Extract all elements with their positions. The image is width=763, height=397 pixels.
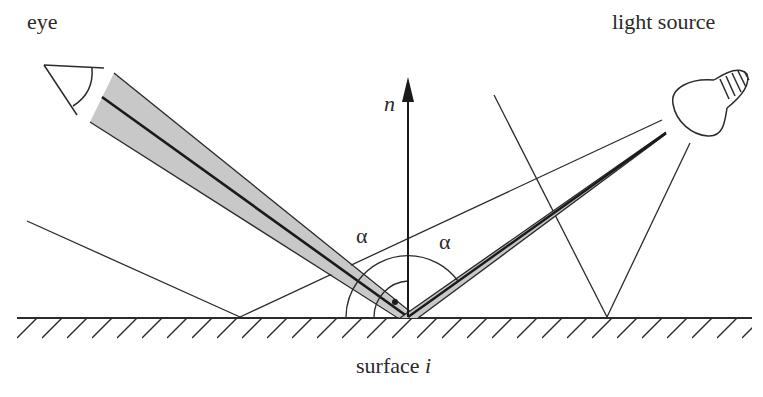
surface-label-text: surface	[356, 353, 420, 378]
surface-label: surface i	[356, 355, 431, 377]
light-source-label: light source	[612, 11, 715, 33]
light-bulb-icon	[673, 70, 749, 136]
light-beam	[400, 132, 666, 318]
view-beam	[90, 73, 418, 318]
eye-icon	[44, 65, 104, 115]
reflection-point-marker	[392, 299, 398, 305]
angle-label-incident: α	[356, 225, 368, 247]
angle-label-reflected: α	[439, 231, 451, 253]
reflection-diagram: eye light source n α α surface i	[0, 0, 763, 397]
diagram-canvas	[0, 0, 763, 397]
eye-label: eye	[27, 11, 58, 33]
normal-label: n	[384, 93, 395, 115]
surface-index: i	[425, 353, 431, 378]
surface-hatched	[17, 318, 752, 340]
